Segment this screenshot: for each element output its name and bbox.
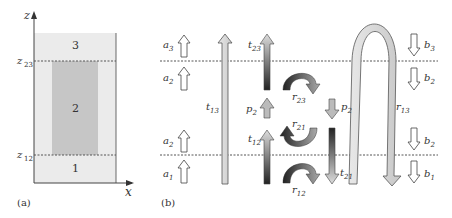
- region-3-label: 3: [72, 39, 79, 52]
- svg-text:23: 23: [24, 61, 33, 69]
- region-1-label: 1: [72, 162, 79, 175]
- svg-text:b2: b2: [424, 135, 435, 149]
- svg-text:b1: b1: [424, 168, 435, 182]
- a-arrows: [178, 35, 190, 183]
- svg-text:12: 12: [24, 155, 33, 163]
- svg-text:b3: b3: [424, 39, 435, 53]
- t21-arrow: [325, 128, 339, 184]
- svg-text:a3: a3: [163, 39, 174, 53]
- svg-text:z: z: [16, 149, 23, 160]
- z-axis-label: z: [23, 9, 30, 22]
- panel-b-caption: (b): [161, 197, 175, 208]
- panel-b: a3 a2 a2 a1 t13 t23 p2 t12 r23 r21 r12 p…: [160, 24, 438, 208]
- r12-curved-arrow: [283, 164, 320, 184]
- t12-arrow: [260, 130, 274, 184]
- svg-text:p2: p2: [246, 103, 257, 117]
- svg-text:r13: r13: [396, 101, 410, 115]
- diagram-canvas: z x z 23 z 12 3 2 1 (a): [0, 0, 452, 218]
- r23-curved-arrow: [283, 73, 320, 94]
- svg-text:t13: t13: [206, 101, 219, 115]
- svg-text:b2: b2: [424, 72, 435, 86]
- x-axis-label: x: [125, 185, 132, 199]
- region-2-label: 2: [72, 102, 79, 115]
- svg-text:a1: a1: [163, 168, 173, 182]
- panel-a-caption: (a): [17, 197, 31, 208]
- p2plus-arrow: [260, 98, 274, 118]
- svg-text:r23: r23: [292, 91, 306, 105]
- p2minus-arrow: [325, 99, 339, 119]
- panel-a: z x z 23 z 12 3 2 1 (a): [16, 9, 134, 208]
- svg-text:z: z: [16, 55, 23, 66]
- svg-text:t23: t23: [248, 39, 261, 53]
- b-arrows: [408, 34, 420, 183]
- r13-arch-arrow: [349, 24, 401, 186]
- t23-arrow: [260, 34, 274, 90]
- svg-text:a2: a2: [163, 135, 174, 149]
- svg-text:r21: r21: [292, 118, 306, 132]
- t13-arrow: [218, 34, 232, 184]
- svg-text:a2: a2: [163, 72, 174, 86]
- svg-text:r12: r12: [292, 184, 306, 198]
- svg-text:t12: t12: [248, 133, 261, 147]
- z-axis-arrow-icon: [31, 11, 37, 19]
